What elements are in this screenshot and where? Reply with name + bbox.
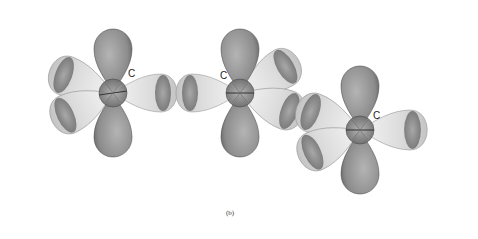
orbital-diagram: C C C (b) (0, 0, 478, 239)
carbon-atom-3 (290, 66, 427, 194)
atom-label-3: C (373, 110, 380, 121)
orbital-diagram-svg (0, 0, 478, 239)
atom-label-2: C (220, 70, 227, 81)
carbon-atom-2 (176, 29, 310, 157)
figure-caption: (b) (226, 209, 234, 217)
carbon-atom-1 (43, 29, 177, 157)
atom-label-1: C (128, 68, 135, 79)
